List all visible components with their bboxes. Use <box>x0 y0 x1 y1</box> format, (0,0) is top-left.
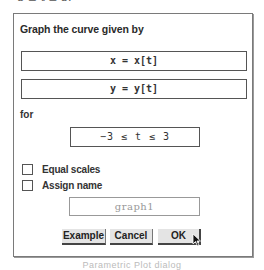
cancel-button[interactable]: Cancel <box>110 229 153 245</box>
figure-caption: Parametric Plot dialog <box>0 260 264 270</box>
mouse-pointer-icon <box>192 233 202 247</box>
assign-name-label: Assign name <box>42 180 102 191</box>
cut-off-text: −3 ≤ t ≤ 3. <box>8 0 72 4</box>
assign-name-option[interactable]: Assign name <box>22 180 102 191</box>
graph-curve-dialog: Graph the curve given by x = x[t] y = y[… <box>13 13 253 257</box>
assign-name-checkbox[interactable] <box>22 180 33 191</box>
for-label: for <box>20 109 33 120</box>
y-equation-input[interactable]: y = y[t] <box>21 79 247 99</box>
equal-scales-option[interactable]: Equal scales <box>22 164 100 175</box>
dialog-title: Graph the curve given by <box>20 23 144 35</box>
range-input[interactable]: −3 ≤ t ≤ 3 <box>70 127 200 147</box>
equal-scales-label: Equal scales <box>42 164 100 175</box>
example-button[interactable]: Example <box>62 229 106 245</box>
name-input[interactable]: graph1 <box>69 197 200 216</box>
x-equation-input[interactable]: x = x[t] <box>21 51 247 71</box>
equal-scales-checkbox[interactable] <box>22 164 33 175</box>
